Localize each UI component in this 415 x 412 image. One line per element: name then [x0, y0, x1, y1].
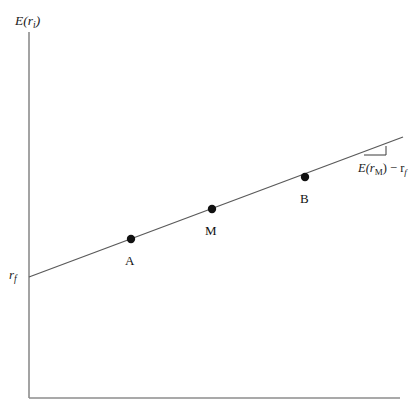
data-point-marker [127, 235, 135, 243]
data-point-marker [208, 205, 216, 213]
market-risk-premium-prefix: E(r [358, 161, 375, 175]
point-label-m: M [205, 224, 217, 237]
point-label-a: A [125, 254, 134, 267]
data-point-marker [301, 173, 309, 181]
market-risk-premium-mid: ) − r [383, 161, 405, 175]
point-label-b: B [300, 192, 309, 205]
market-risk-premium-sub-m: M [375, 167, 383, 177]
sml-chart-figure: E(ri) rf A M B E(rM) − rf [0, 0, 415, 412]
y-axis-label-main: E(r [15, 13, 33, 28]
chart-canvas [0, 0, 415, 412]
market-risk-premium-label: E(rM) − rf [358, 162, 407, 177]
y-axis-label-close: ) [36, 13, 41, 28]
market-risk-premium-sub-f: f [404, 167, 407, 177]
risk-free-rate-label: rf [9, 268, 17, 284]
risk-free-rate-label-subscript: f [14, 274, 17, 284]
security-market-line [29, 137, 403, 277]
y-axis-label: E(ri) [15, 14, 40, 30]
